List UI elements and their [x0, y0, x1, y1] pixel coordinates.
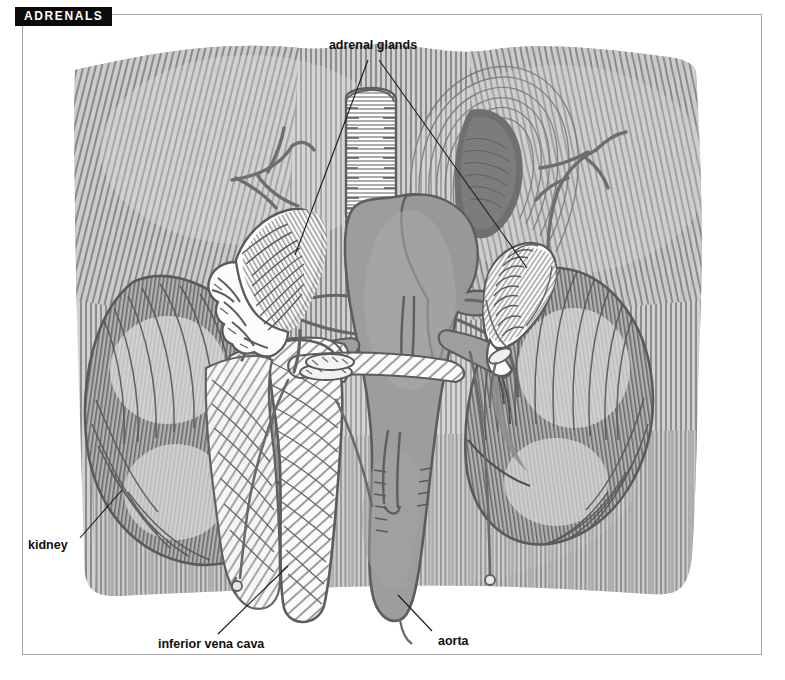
section-tab-adrenals: ADRENALS: [15, 7, 112, 26]
anatomy-figure-svg: adrenal glands kidney inferior vena cava…: [0, 0, 785, 680]
label-kidney: kidney: [28, 538, 68, 552]
left-vessel-cut-rim: [306, 354, 354, 370]
label-aorta: aorta: [438, 634, 470, 648]
label-inferior-vena-cava: inferior vena cava: [158, 637, 265, 651]
label-adrenal-glands: adrenal glands: [329, 38, 417, 52]
page-canvas: adrenal glands kidney inferior vena cava…: [0, 0, 785, 680]
figure-illustration: adrenal glands kidney inferior vena cava…: [0, 0, 785, 680]
